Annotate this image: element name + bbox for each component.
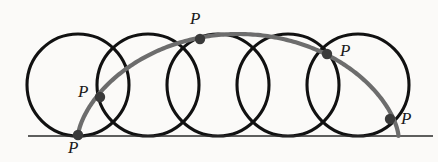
point-label-p2: P: [78, 83, 88, 100]
traced-point-p4: [322, 49, 332, 59]
point-label-p1: P: [68, 139, 78, 156]
point-label-p5: P: [401, 110, 411, 127]
cycloid-svg: [0, 0, 438, 162]
point-label-p3: P: [190, 10, 200, 27]
traced-point-p2: [95, 92, 105, 102]
point-label-p4: P: [340, 42, 350, 59]
cycloid-figure: PPPPP: [0, 0, 438, 162]
traced-point-p5: [385, 114, 395, 124]
traced-point-p3: [195, 34, 205, 44]
